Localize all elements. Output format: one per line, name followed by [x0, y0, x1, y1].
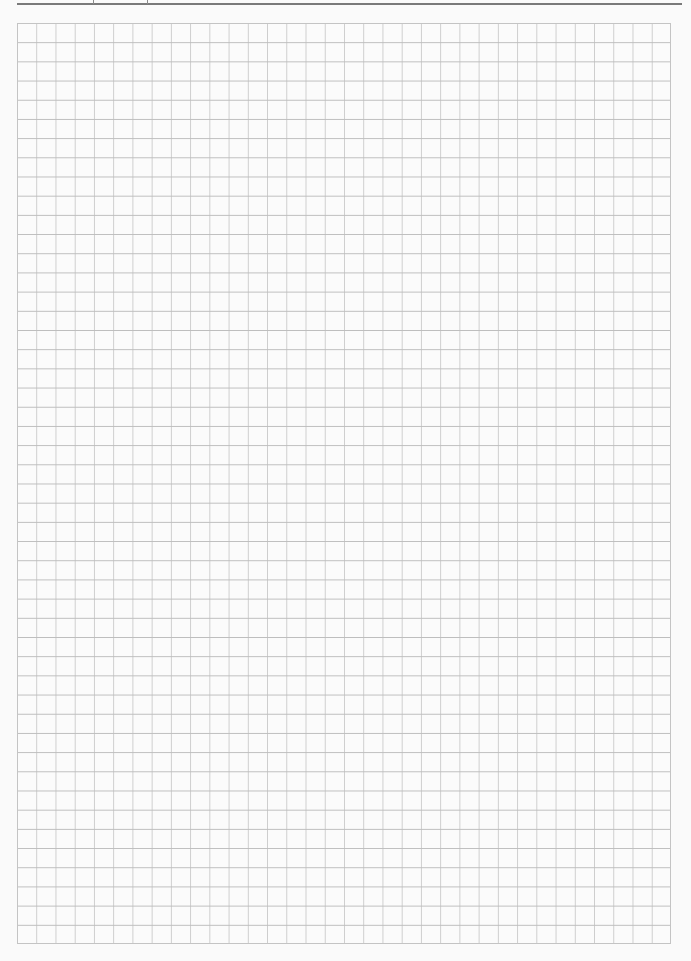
graph-paper-grid [17, 23, 671, 944]
header-field-box [93, 0, 148, 4]
